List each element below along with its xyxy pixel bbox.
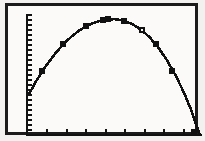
y-axis-tick	[28, 24, 32, 26]
x-axis-tick	[163, 129, 165, 134]
data-point-marker	[169, 68, 175, 74]
calculator-screen: Graphing calculator plot screen	[0, 0, 205, 141]
y-axis-tick	[28, 79, 32, 81]
y-axis-tick	[28, 64, 32, 66]
y-axis-tick	[28, 74, 32, 76]
data-point-marker	[60, 41, 66, 47]
y-axis-tick	[28, 39, 32, 41]
y-axis-tick	[28, 114, 32, 116]
data-point-marker	[153, 41, 159, 47]
screen-frame	[5, 3, 198, 135]
y-axis-tick	[28, 44, 32, 46]
x-axis-tick	[105, 129, 107, 134]
y-axis-tick	[28, 29, 32, 31]
data-point-marker	[121, 18, 127, 24]
y-axis-tick	[28, 59, 32, 61]
x-axis-tick	[66, 129, 68, 134]
cursor-marker	[139, 27, 145, 33]
y-axis-tick	[28, 124, 32, 126]
y-axis-tick	[28, 54, 32, 56]
y-axis-tick	[28, 84, 32, 86]
y-axis-tick	[28, 89, 32, 91]
y-axis-tick	[28, 129, 32, 131]
y-axis-tick	[28, 119, 32, 121]
data-point-marker	[39, 68, 45, 74]
plot-area	[16, 12, 203, 138]
screen-title: Graphing calculator plot screen	[0, 0, 1, 1]
y-axis-tick	[28, 104, 32, 106]
y-axis-tick	[28, 69, 32, 71]
y-axis-tick	[28, 109, 32, 111]
data-point-marker	[191, 129, 197, 135]
y-axis-tick	[28, 49, 32, 51]
x-axis-tick	[46, 129, 48, 134]
y-axis-tick	[28, 34, 32, 36]
y-axis-tick	[28, 99, 32, 101]
x-axis-tick	[124, 129, 126, 134]
fitted-curve	[16, 12, 203, 138]
y-axis-tick	[28, 19, 32, 21]
data-point-marker	[105, 16, 111, 22]
y-axis-tick	[28, 14, 32, 16]
data-point-marker	[83, 23, 89, 29]
x-axis-tick	[85, 129, 87, 134]
x-axis-tick	[183, 129, 185, 134]
y-axis-tick	[28, 94, 32, 96]
x-axis-tick	[144, 129, 146, 134]
